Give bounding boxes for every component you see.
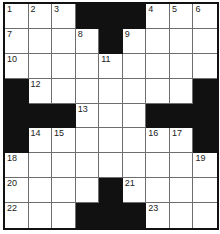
- crossword-cell[interactable]: [170, 79, 194, 104]
- crossword-cell[interactable]: [123, 128, 147, 153]
- crossword-cell[interactable]: [146, 54, 170, 79]
- crossword-cell[interactable]: [193, 203, 217, 228]
- clue-number: 6: [195, 5, 200, 14]
- crossword-cell[interactable]: [52, 178, 76, 203]
- crossword-cell[interactable]: 16: [146, 128, 170, 153]
- crossword-grid: 1234567891011121314151617181920212223: [5, 4, 217, 228]
- crossword-cell[interactable]: [146, 153, 170, 178]
- crossword-cell[interactable]: 14: [29, 128, 53, 153]
- clue-number: 4: [148, 5, 153, 14]
- crossword-cell[interactable]: [99, 153, 123, 178]
- crossword-cell[interactable]: [29, 178, 53, 203]
- crossword-cell[interactable]: 22: [5, 203, 29, 228]
- clue-number: 16: [148, 129, 158, 138]
- crossword-cell[interactable]: [146, 178, 170, 203]
- clue-number: 3: [54, 5, 59, 14]
- crossword-cell[interactable]: 20: [5, 178, 29, 203]
- crossword-cell[interactable]: 15: [52, 128, 76, 153]
- clue-number: 14: [31, 129, 41, 138]
- black-square: [170, 104, 194, 129]
- clue-number: 17: [172, 129, 182, 138]
- black-square: [99, 4, 123, 29]
- clue-number: 18: [7, 154, 17, 163]
- black-square: [193, 104, 217, 129]
- crossword-cell[interactable]: [29, 153, 53, 178]
- black-square: [76, 203, 100, 228]
- crossword-cell[interactable]: [123, 79, 147, 104]
- crossword-cell[interactable]: 11: [99, 54, 123, 79]
- crossword-cell[interactable]: 1: [5, 4, 29, 29]
- crossword-cell[interactable]: [170, 54, 194, 79]
- crossword-cell[interactable]: [146, 29, 170, 54]
- clue-number: 13: [78, 105, 88, 114]
- crossword-cell[interactable]: [123, 54, 147, 79]
- crossword-cell[interactable]: [170, 178, 194, 203]
- crossword-cell[interactable]: [99, 104, 123, 129]
- clue-number: 22: [7, 204, 17, 213]
- clue-number: 11: [101, 55, 110, 64]
- crossword-cell[interactable]: [193, 54, 217, 79]
- crossword-cell[interactable]: [146, 79, 170, 104]
- crossword-cell[interactable]: [52, 79, 76, 104]
- crossword-cell[interactable]: 6: [193, 4, 217, 29]
- black-square: [193, 79, 217, 104]
- crossword-cell[interactable]: 9: [123, 29, 147, 54]
- clue-number: 7: [7, 30, 12, 39]
- clue-number: 19: [195, 154, 205, 163]
- crossword-cell[interactable]: [193, 29, 217, 54]
- black-square: [193, 128, 217, 153]
- crossword-cell[interactable]: 10: [5, 54, 29, 79]
- crossword-cell[interactable]: 12: [29, 79, 53, 104]
- crossword-board: 1234567891011121314151617181920212223: [3, 2, 219, 230]
- crossword-cell[interactable]: [123, 153, 147, 178]
- crossword-cell[interactable]: 4: [146, 4, 170, 29]
- clue-number: 1: [7, 5, 12, 14]
- crossword-cell[interactable]: 19: [193, 153, 217, 178]
- crossword-cell[interactable]: [76, 128, 100, 153]
- crossword-cell[interactable]: [52, 54, 76, 79]
- black-square: [52, 104, 76, 129]
- crossword-cell[interactable]: 2: [29, 4, 53, 29]
- black-square: [146, 104, 170, 129]
- black-square: [76, 4, 100, 29]
- crossword-cell[interactable]: [29, 54, 53, 79]
- crossword-cell[interactable]: [76, 79, 100, 104]
- crossword-cell[interactable]: 7: [5, 29, 29, 54]
- black-square: [99, 29, 123, 54]
- crossword-cell[interactable]: 13: [76, 104, 100, 129]
- black-square: [5, 79, 29, 104]
- crossword-cell[interactable]: [29, 29, 53, 54]
- black-square: [5, 128, 29, 153]
- crossword-cell[interactable]: [170, 29, 194, 54]
- crossword-cell[interactable]: 8: [76, 29, 100, 54]
- black-square: [99, 203, 123, 228]
- crossword-cell[interactable]: 21: [123, 178, 147, 203]
- crossword-cell[interactable]: [76, 178, 100, 203]
- crossword-cell[interactable]: [76, 153, 100, 178]
- crossword-cell[interactable]: 5: [170, 4, 194, 29]
- crossword-cell[interactable]: 23: [146, 203, 170, 228]
- crossword-cell[interactable]: 18: [5, 153, 29, 178]
- crossword-cell[interactable]: [170, 153, 194, 178]
- crossword-cell[interactable]: 3: [52, 4, 76, 29]
- crossword-cell[interactable]: [52, 153, 76, 178]
- crossword-cell[interactable]: [170, 203, 194, 228]
- crossword-cell[interactable]: [99, 79, 123, 104]
- clue-number: 23: [148, 204, 158, 213]
- crossword-cell[interactable]: [29, 203, 53, 228]
- clue-number: 12: [31, 80, 41, 89]
- crossword-cell[interactable]: [193, 178, 217, 203]
- clue-number: 9: [125, 30, 130, 39]
- crossword-cell[interactable]: [99, 128, 123, 153]
- clue-number: 21: [125, 179, 135, 188]
- black-square: [5, 104, 29, 129]
- crossword-cell[interactable]: [52, 203, 76, 228]
- crossword-cell[interactable]: [123, 104, 147, 129]
- black-square: [99, 178, 123, 203]
- clue-number: 8: [78, 30, 83, 39]
- clue-number: 5: [172, 5, 177, 14]
- crossword-cell[interactable]: 17: [170, 128, 194, 153]
- black-square: [123, 203, 147, 228]
- crossword-cell[interactable]: [52, 29, 76, 54]
- crossword-cell[interactable]: [76, 54, 100, 79]
